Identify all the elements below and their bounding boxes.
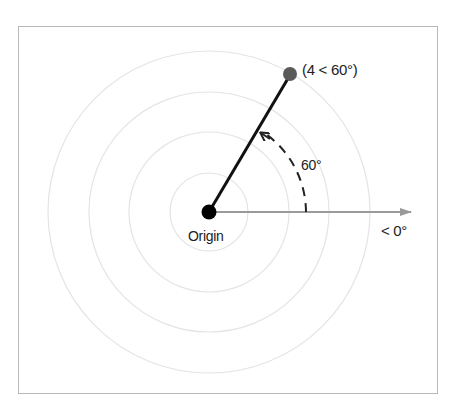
- origin-label: Origin: [188, 228, 224, 244]
- angle-arc-dashed: [263, 132, 306, 212]
- vector-line: [209, 75, 290, 212]
- point-marker: [283, 67, 297, 81]
- origin-marker: [202, 205, 217, 220]
- angle-label: 60°: [301, 157, 321, 173]
- point-label: (4 < 60°): [302, 61, 357, 78]
- polar-diagram: [0, 0, 459, 414]
- axis-label: < 0°: [381, 222, 407, 239]
